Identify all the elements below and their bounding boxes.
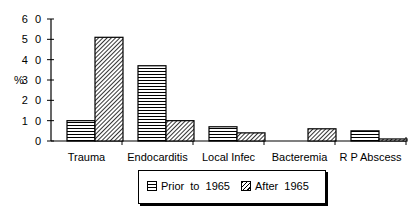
bar	[209, 127, 237, 141]
legend-label-after: After 1965	[255, 180, 309, 192]
bar	[138, 66, 166, 141]
x-category-label: Endocarditis	[127, 151, 188, 163]
bar	[95, 37, 123, 141]
x-category-label: Trauma	[68, 151, 106, 163]
y-axis-label: %	[14, 74, 26, 86]
bars	[67, 37, 407, 141]
bar	[67, 121, 95, 141]
x-category-label: Local Infec	[202, 151, 256, 163]
x-category-label: Bacteremia	[272, 151, 329, 163]
bar	[351, 131, 379, 141]
legend-item-after: After 1965	[241, 180, 309, 192]
bar	[237, 133, 265, 141]
diagonal-hatch-swatch-icon	[241, 181, 251, 191]
legend-label-prior: Prior to 1965	[161, 180, 230, 192]
legend-item-prior: Prior to 1965	[147, 180, 230, 192]
y-tick-label: 1 0	[22, 115, 43, 127]
x-category-label: R P Abscess	[339, 151, 402, 163]
bar	[166, 121, 194, 141]
y-tick-label: 4 0	[22, 54, 43, 66]
bar	[308, 129, 336, 141]
legend: Prior to 1965 After 1965	[138, 170, 326, 204]
y-tick-label: 5 0	[22, 33, 43, 45]
y-tick-label: 6 0	[22, 13, 43, 25]
y-tick-label: 0	[35, 135, 43, 147]
bar	[379, 139, 407, 141]
horizontal-lines-swatch-icon	[147, 181, 157, 191]
y-tick-label: 2 0	[22, 94, 43, 106]
